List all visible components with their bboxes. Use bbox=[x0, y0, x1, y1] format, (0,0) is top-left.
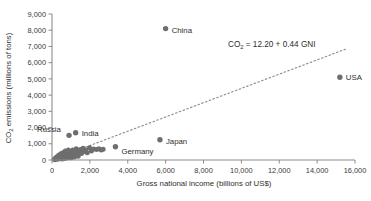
point-label-india: India bbox=[82, 129, 100, 138]
x-tick-label: 14,000 bbox=[306, 166, 329, 175]
chart-canvas: 01,0002,0003,0004,0005,0006,0007,0008,00… bbox=[0, 0, 371, 201]
y-tick-label: 0 bbox=[42, 156, 46, 165]
point-label-germany: Germany bbox=[121, 147, 153, 156]
x-tick-label: 8,000 bbox=[194, 166, 213, 175]
x-tick-label: 10,000 bbox=[230, 166, 253, 175]
point-label-usa: USA bbox=[346, 73, 363, 82]
data-point-usa bbox=[337, 75, 342, 80]
scatter-plot-figure: 01,0002,0003,0004,0005,0006,0007,0008,00… bbox=[0, 0, 371, 201]
data-point-germany bbox=[113, 144, 118, 149]
data-point bbox=[101, 147, 106, 152]
regression-fit-line bbox=[52, 48, 347, 159]
data-point-japan bbox=[157, 137, 162, 142]
point-label-russia: Russia bbox=[37, 125, 61, 134]
regression-line bbox=[52, 48, 347, 159]
point-label-china: China bbox=[172, 26, 193, 35]
data-point-russia bbox=[66, 133, 71, 138]
point-label-japan: Japan bbox=[166, 137, 187, 146]
data-point bbox=[76, 154, 81, 159]
x-tick-label: 4,000 bbox=[119, 166, 138, 175]
x-axis-title: Gross national income (billions of US$) bbox=[137, 179, 272, 188]
y-axis-title: CO2 emissions (millions of tons) bbox=[4, 32, 14, 143]
data-point-india bbox=[73, 130, 78, 135]
y-tick-label: 8,000 bbox=[28, 26, 47, 35]
y-tick-label: 4,000 bbox=[28, 91, 47, 100]
x-tick-label: 6,000 bbox=[156, 166, 175, 175]
y-tick-label: 5,000 bbox=[28, 75, 47, 84]
y-tick-label: 3,000 bbox=[28, 107, 47, 116]
regression-equation-annotation: CO2 = 12.20 + 0.44 GNI bbox=[228, 40, 315, 50]
x-tick-label: 2,000 bbox=[81, 166, 100, 175]
axes-layer bbox=[49, 14, 356, 164]
x-tick-label: 16,000 bbox=[344, 166, 367, 175]
y-tick-label: 6,000 bbox=[28, 58, 47, 67]
x-tick-label: 12,000 bbox=[268, 166, 291, 175]
data-point bbox=[66, 147, 71, 152]
caption-mark: · bbox=[4, 192, 6, 198]
y-tick-label: 1,000 bbox=[28, 139, 47, 148]
x-tick-label: 0 bbox=[50, 166, 54, 175]
y-tick-label: 9,000 bbox=[28, 10, 47, 19]
data-point-china bbox=[163, 26, 168, 31]
y-tick-label: 7,000 bbox=[28, 42, 47, 51]
